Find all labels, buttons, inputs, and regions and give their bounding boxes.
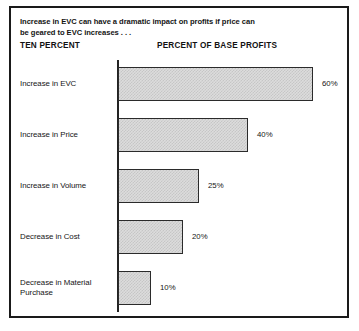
bar-group: 20%	[118, 220, 208, 254]
bar-label: Decrease in Cost	[20, 232, 116, 242]
bar-value-label: 20%	[192, 232, 208, 241]
bar-rect	[118, 118, 248, 152]
bar-rect	[118, 271, 151, 305]
bar-rect	[118, 169, 199, 203]
table-row: Decrease in Cost 20%	[11, 211, 347, 262]
chart-title-line-1: Increase in EVC can have a dramatic impa…	[20, 16, 320, 27]
bar-label: Decrease in Material Purchase	[20, 278, 116, 298]
table-row: Increase in EVC 60%	[11, 58, 347, 109]
bar-label: Increase in Price	[20, 130, 116, 140]
column-headers: TEN PERCENT PERCENT OF BASE PROFITS	[11, 41, 347, 55]
bar-value-label: 40%	[257, 130, 273, 139]
bar-group: 10%	[118, 271, 176, 305]
table-row: Increase in Price 40%	[11, 109, 347, 160]
bar-value-label: 10%	[160, 283, 176, 292]
bar-value-label: 25%	[208, 181, 224, 190]
bar-group: 25%	[118, 169, 224, 203]
bar-value-label: 60%	[322, 79, 338, 88]
bar-label: Increase in Volume	[20, 181, 116, 191]
bar-rect	[118, 67, 313, 101]
table-row: Increase in Volume 25%	[11, 160, 347, 211]
column-header-percent-of-base-profits: PERCENT OF BASE PROFITS	[157, 41, 277, 50]
chart-plot-area: Increase in EVC 60% Increase in Price 40…	[11, 58, 347, 316]
exhibit-frame: Increase in EVC can have a dramatic impa…	[9, 6, 349, 318]
table-row: Decrease in Material Purchase 10%	[11, 262, 347, 313]
column-header-ten-percent: TEN PERCENT	[20, 41, 80, 50]
bar-group: 60%	[118, 67, 338, 101]
chart-title-line-2: be geared to EVC increases . . .	[20, 27, 320, 38]
chart-title: Increase in EVC can have a dramatic impa…	[20, 16, 320, 38]
bar-label: Increase in EVC	[20, 79, 116, 89]
bar-group: 40%	[118, 118, 273, 152]
bar-rect	[118, 220, 183, 254]
